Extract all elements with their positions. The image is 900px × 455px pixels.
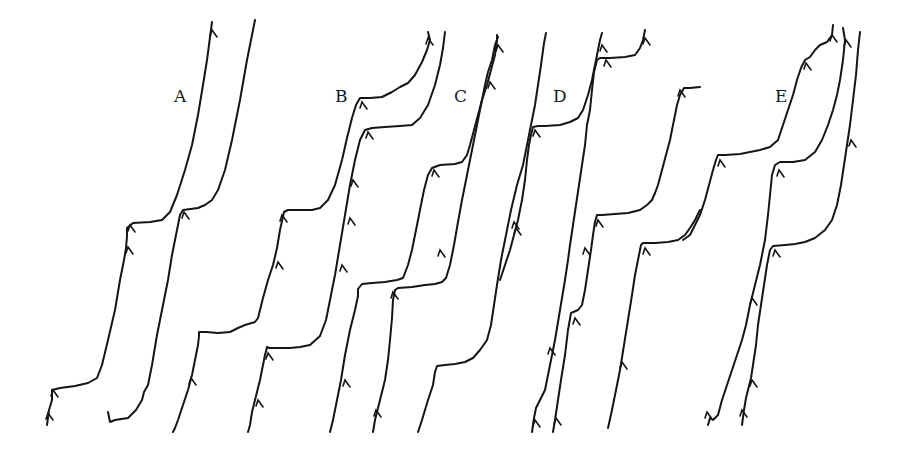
arrow-tick-icon bbox=[750, 380, 757, 387]
arrow-tick-icon bbox=[604, 60, 611, 67]
arrow-tick-icon bbox=[573, 318, 580, 325]
arrow-tick-icon bbox=[804, 63, 811, 70]
arrow-tick-icon bbox=[360, 102, 367, 109]
arrow-tick-icon bbox=[182, 212, 189, 219]
trace-e-13 bbox=[742, 32, 860, 425]
panel-label-c: C bbox=[454, 88, 467, 105]
trace-c-4 bbox=[330, 35, 497, 432]
trace-c-6 bbox=[418, 33, 546, 432]
traces-plot bbox=[0, 0, 900, 455]
trace-e-11 bbox=[683, 25, 833, 240]
arrow-tick-icon bbox=[705, 412, 712, 419]
trace-a-0 bbox=[47, 22, 212, 425]
arrow-tick-icon bbox=[496, 45, 503, 52]
arrow-tick-icon bbox=[830, 35, 837, 42]
arrow-tick-icon bbox=[643, 38, 650, 45]
trace-d-10 bbox=[608, 210, 700, 428]
panel-label-d: D bbox=[553, 88, 567, 105]
trace-d-9 bbox=[553, 87, 700, 432]
trace-a-1 bbox=[108, 20, 255, 422]
arrow-tick-icon bbox=[126, 247, 133, 254]
arrow-tick-icon bbox=[596, 220, 603, 227]
arrow-tick-icon bbox=[533, 130, 540, 137]
arrow-tick-icon bbox=[348, 218, 355, 225]
arrow-tick-icon bbox=[600, 45, 607, 52]
arrow-tick-icon bbox=[777, 170, 784, 177]
arrow-tick-icon bbox=[488, 82, 495, 89]
trace-b-2 bbox=[173, 32, 430, 432]
arrow-tick-icon bbox=[643, 248, 650, 255]
arrow-tick-icon bbox=[583, 248, 590, 255]
arrow-tick-icon bbox=[256, 400, 263, 407]
arrow-tick-icon bbox=[432, 170, 439, 177]
arrow-tick-icon bbox=[266, 353, 273, 360]
arrow-tick-icon bbox=[438, 250, 445, 257]
arrow-tick-icon bbox=[849, 140, 856, 147]
trace-d-7 bbox=[500, 33, 602, 280]
arrow-tick-icon bbox=[351, 180, 358, 187]
arrow-tick-icon bbox=[340, 265, 347, 272]
arrow-tick-icon bbox=[533, 420, 540, 427]
arrow-tick-icon bbox=[773, 250, 780, 257]
arrow-tick-icon bbox=[128, 225, 135, 232]
panel-label-e: E bbox=[775, 88, 787, 105]
arrow-tick-icon bbox=[366, 132, 373, 139]
figure-canvas: A B C D E bbox=[0, 0, 900, 455]
arrow-tick-icon bbox=[343, 380, 350, 387]
arrow-tick-icon bbox=[718, 160, 725, 167]
panel-label-b: B bbox=[335, 88, 348, 105]
panel-label-a: A bbox=[174, 88, 186, 105]
arrow-tick-icon bbox=[276, 262, 283, 269]
